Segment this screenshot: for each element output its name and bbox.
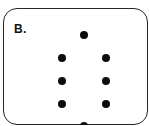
figure-panel: B. <box>3 8 148 125</box>
figure-canvas: B. <box>0 0 149 125</box>
dot-4 <box>58 77 66 85</box>
dot-8 <box>80 122 88 126</box>
dot-6 <box>58 100 66 108</box>
dot-1 <box>80 31 88 39</box>
dot-7 <box>102 100 110 108</box>
dot-3 <box>102 54 110 62</box>
dot-pattern <box>4 9 147 124</box>
dot-5 <box>102 77 110 85</box>
dot-2 <box>58 54 66 62</box>
